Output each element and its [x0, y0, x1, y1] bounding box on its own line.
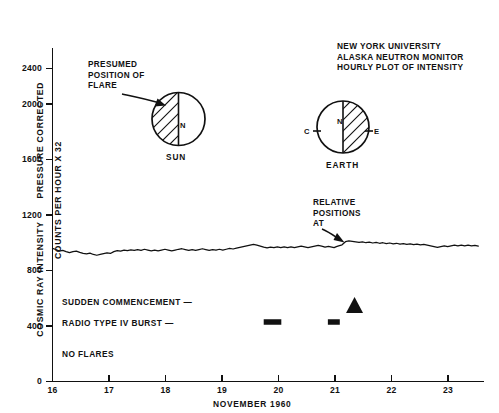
relative-positions-line-1: RELATIVE — [313, 198, 356, 208]
sun-hatching — [140, 52, 262, 174]
x-tick-label-22: 22 — [380, 385, 404, 395]
earth-north-pole-label: N — [337, 117, 343, 126]
y-tick-label-1600: 1600 — [13, 154, 42, 164]
cosmic-ray-intensity-figure: COSMIC RAY INTENSITY PRESSURE CORRECTED … — [0, 0, 499, 413]
relative-positions-line-3: AT — [313, 219, 324, 229]
y-axis-title-seg-0: COSMIC RAY INTENSITY — [35, 221, 45, 336]
sun-diagram — [140, 52, 262, 174]
sun-north-pole-label: N — [180, 121, 186, 130]
y-tick-label-400: 400 — [16, 321, 42, 331]
earth-e-label: E — [374, 127, 379, 136]
relative-positions-arrow — [322, 229, 345, 243]
radio-burst-bar-2 — [328, 319, 340, 325]
x-tick-label-16: 16 — [41, 385, 65, 395]
x-tick-label-21: 21 — [323, 385, 347, 395]
x-axis-title: NOVEMBER 1960 — [213, 399, 291, 409]
earth-c-label: C — [304, 127, 310, 136]
earth-label: EARTH — [326, 160, 359, 170]
sun-label: SUN — [166, 152, 186, 162]
cosmic-ray-trace — [53, 241, 479, 255]
y-tick-label-2000: 2000 — [13, 99, 42, 109]
axes-group — [53, 48, 485, 382]
x-tick-label-19: 19 — [210, 385, 234, 395]
y-axis-title-seg-2: COUNTS PER HOUR X 32 — [53, 141, 63, 259]
presumed-flare-line-2: POSITION OF — [88, 71, 145, 81]
no-flares-label: NO FLARES — [62, 349, 114, 359]
flare-arrow — [122, 94, 166, 107]
sudden-commencement-label: SUDDEN COMMENCEMENT — — [62, 297, 192, 307]
x-tick-label-17: 17 — [97, 385, 121, 395]
figure-title-line-1: NEW YORK UNIVERSITY — [337, 41, 441, 52]
presumed-flare-line-1: PRESUMED — [88, 60, 137, 70]
figure-title-line-2: ALASKA NEUTRON MONITOR — [337, 52, 464, 63]
presumed-flare-line-3: FLARE — [88, 81, 117, 91]
y-tick-label-1200: 1200 — [13, 210, 42, 220]
x-tick-label-23: 23 — [436, 385, 460, 395]
figure-title-line-3: HOURLY PLOT OF INTENSITY — [337, 62, 463, 73]
x-tick-label-20: 20 — [267, 385, 291, 395]
y-tick-label-0: 0 — [16, 376, 42, 386]
radio-burst-bar-1 — [264, 319, 282, 325]
y-tick-label-800: 800 — [16, 265, 42, 275]
sudden-commencement-triangle — [346, 297, 363, 313]
relative-positions-line-2: POSITIONS — [313, 209, 361, 219]
y-tick-label-2400: 2400 — [13, 63, 42, 73]
radio-type-iv-burst-label: RADIO TYPE IV BURST — — [62, 318, 174, 328]
x-tick-marks — [53, 375, 449, 382]
x-tick-label-18: 18 — [154, 385, 178, 395]
y-axis-title: COSMIC RAY INTENSITY PRESSURE CORRECTED … — [29, 35, 65, 365]
